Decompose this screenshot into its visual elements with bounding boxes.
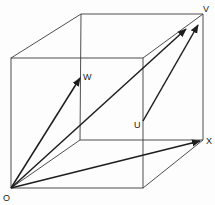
label-x: X <box>206 136 212 146</box>
cube-top-left-depth-edge <box>11 14 81 58</box>
cube-front-face <box>11 58 143 188</box>
cube-bottom-left-depth-edge <box>11 140 80 188</box>
label-origin: O <box>3 193 10 203</box>
vector-ox-arrow <box>11 141 200 188</box>
vector-ov-arrow <box>11 29 186 188</box>
vector-uv-arrow <box>143 25 198 121</box>
label-u: U <box>134 120 141 130</box>
vectors <box>11 25 200 188</box>
cube-vector-diagram: O W V U X <box>0 0 215 205</box>
diagram-svg: O W V U X <box>0 0 215 205</box>
cube-top-right-depth-edge <box>143 14 203 58</box>
vector-ow-arrow <box>11 78 80 188</box>
label-v: V <box>203 4 209 14</box>
cube-back-left-edge <box>80 14 81 140</box>
cube-back-top-right-edges <box>81 14 203 140</box>
label-w: W <box>83 72 92 82</box>
